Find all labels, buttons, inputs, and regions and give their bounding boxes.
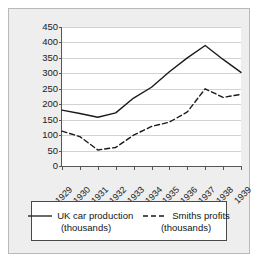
- y-tick-label: 200: [42, 99, 58, 109]
- x-tick-mark: [152, 166, 153, 170]
- x-tick-mark: [62, 166, 63, 170]
- legend-entry-uk-car-production: UK car production: [28, 210, 133, 222]
- y-tick-label: 300: [42, 69, 58, 79]
- chart-figure: 050100150200250300350400450 192919301931…: [8, 8, 250, 254]
- legend-unit-smiths-profits: (thousands): [148, 222, 224, 233]
- legend-unit-uk-car-production: (thousands): [34, 222, 138, 233]
- x-tick-mark: [205, 166, 206, 170]
- solid-line-swatch: [28, 212, 52, 220]
- legend-entry-smiths-profits: Smiths profits: [143, 210, 230, 222]
- y-tick-label: 350: [42, 53, 58, 63]
- legend-label-smiths-profits: Smiths profits: [172, 210, 230, 222]
- series-line-smiths-profits: [62, 89, 241, 150]
- y-tick-label: 50: [47, 146, 58, 156]
- x-tick-label: 1939: [233, 185, 254, 206]
- legend-row-labels: UK car production Smiths profits: [32, 210, 226, 222]
- plot-area: 050100150200250300350400450 192919301931…: [61, 27, 241, 167]
- x-tick-mark: [134, 166, 135, 170]
- x-tick-mark: [187, 166, 188, 170]
- data-series-group: [62, 27, 241, 166]
- x-tick-mark: [98, 166, 99, 170]
- x-tick-mark: [169, 166, 170, 170]
- y-tick-label: 250: [42, 84, 58, 94]
- x-tick-mark: [223, 166, 224, 170]
- plot-wrapper: 050100150200250300350400450 192919301931…: [33, 19, 241, 191]
- legend-label-uk-car-production: UK car production: [57, 210, 133, 222]
- y-tick-label: 150: [42, 115, 58, 125]
- legend-row-units: (thousands) (thousands): [32, 222, 226, 233]
- x-tick-mark: [241, 166, 242, 170]
- y-tick-label: 0: [53, 161, 58, 171]
- y-tick-label: 450: [42, 22, 58, 32]
- chart-legend: UK car production Smiths profits (thousa…: [31, 201, 227, 241]
- x-tick-mark: [80, 166, 81, 170]
- y-tick-label: 100: [42, 130, 58, 140]
- y-tick-label: 400: [42, 38, 58, 48]
- series-line-uk-car-production: [62, 46, 241, 118]
- x-tick-mark: [116, 166, 117, 170]
- dashed-line-swatch: [143, 212, 167, 220]
